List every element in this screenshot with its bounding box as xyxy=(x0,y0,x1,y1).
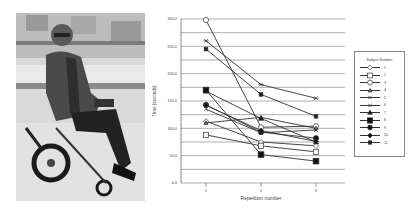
legend-marker-icon xyxy=(360,117,380,124)
legend-item: 6 xyxy=(355,102,404,110)
legend-marker-icon xyxy=(360,124,380,131)
legend-marker-icon xyxy=(360,94,380,101)
legend-marker-icon xyxy=(360,79,380,86)
y-tick-label: 300.0 xyxy=(167,17,177,21)
y-tick-label: 50.0 xyxy=(170,154,177,158)
legend-label: 10 xyxy=(384,133,388,137)
legend-label: 7 xyxy=(384,111,386,115)
legend-label: 9 xyxy=(384,126,386,130)
legend-item: 8 xyxy=(355,117,404,125)
x-tick-label: 1 xyxy=(205,189,207,193)
legend-marker-icon xyxy=(360,87,380,94)
legend-item: 5 xyxy=(355,94,404,102)
legend-item: 4 xyxy=(355,87,404,95)
y-tick-label: 0.0 xyxy=(172,181,177,185)
legend-label: 5 xyxy=(384,96,386,100)
legend-label: 8 xyxy=(384,118,386,122)
x-axis-label: Repetition number xyxy=(241,195,282,201)
x-tick-label: 3 xyxy=(315,189,317,193)
legend-item: 1 xyxy=(355,64,404,72)
legend-item: 7 xyxy=(355,109,404,117)
legend-marker-icon xyxy=(360,139,380,146)
series-subject-7 xyxy=(203,89,318,144)
y-tick-label: 150.0 xyxy=(167,99,177,103)
legend-item: 11 xyxy=(355,139,404,147)
legend-label: 6 xyxy=(384,103,386,107)
y-axis-label: Time (seconds) xyxy=(152,85,157,116)
legend-item: 2 xyxy=(355,72,404,80)
y-tick-label: 200.0 xyxy=(167,72,177,76)
legend-marker-icon xyxy=(360,102,380,109)
legend-item: 9 xyxy=(355,124,404,132)
legend-title: Subject Number xyxy=(355,58,404,62)
legend-marker-icon xyxy=(360,132,380,139)
legend-item: 10 xyxy=(355,132,404,140)
legend-label: 1 xyxy=(384,66,386,70)
y-tick-label: 250.0 xyxy=(167,45,177,49)
x-tick-label: 2 xyxy=(260,189,262,193)
legend-label: 11 xyxy=(384,141,388,145)
legend-label: 2 xyxy=(384,73,386,77)
wheelchair-user-photo xyxy=(16,13,145,201)
legend-label: 4 xyxy=(384,88,386,92)
legend-label: 3 xyxy=(384,81,386,85)
y-tick-label: 100.0 xyxy=(167,127,177,131)
legend-marker-icon xyxy=(360,109,380,116)
legend-marker-icon xyxy=(360,64,380,71)
legend-item: 3 xyxy=(355,79,404,87)
chart-legend: Subject Number 1234567891011 xyxy=(354,51,405,157)
legend-marker-icon xyxy=(360,72,380,79)
